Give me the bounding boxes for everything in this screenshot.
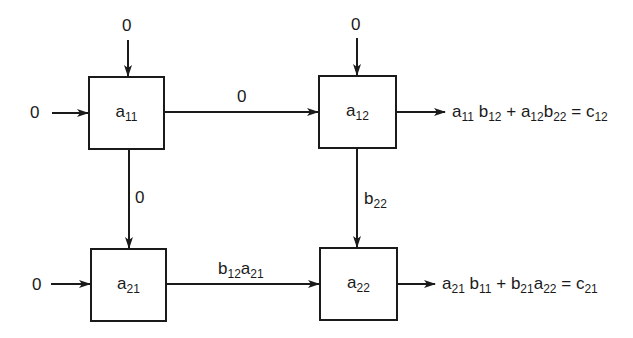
- input-top-a11-label: 0: [122, 17, 131, 34]
- input-left-a11-label: 0: [30, 104, 39, 121]
- cell-a11: a11: [88, 76, 165, 150]
- edge-a21-a22-label: b12a21: [218, 260, 264, 277]
- output-c12-expression: a11 b12 + a12b22 = c12: [452, 103, 608, 120]
- cell-a21-label: a21: [92, 274, 165, 294]
- edge-a11-a12-label: 0: [237, 88, 246, 105]
- cell-a22: a22: [319, 247, 398, 321]
- edge-a11-a21-label: 0: [135, 189, 144, 206]
- cell-a12: a12: [318, 75, 397, 149]
- cell-a22-label: a22: [321, 273, 396, 293]
- input-top-a12-label: 0: [351, 16, 360, 33]
- cell-a21: a21: [90, 248, 167, 322]
- output-c21-expression: a21 b11 + b21a22 = c21: [442, 275, 598, 292]
- edge-a12-a22-label: b22: [364, 190, 387, 207]
- input-left-a21-label: 0: [32, 276, 41, 293]
- cell-a12-label: a12: [320, 101, 395, 121]
- cell-a11-label: a11: [90, 102, 163, 122]
